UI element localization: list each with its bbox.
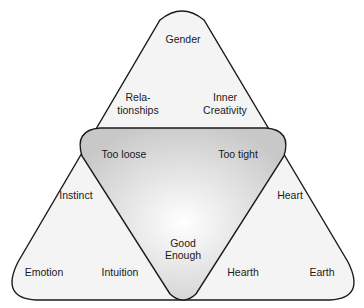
label-relationships-line2: tionships [117, 104, 158, 116]
triangle-diagram: Gender Rela- tionships Inner Creativity … [0, 0, 364, 308]
label-intuition: Intuition [102, 266, 139, 278]
label-instinct: Instinct [59, 189, 92, 201]
label-hearth: Hearth [227, 266, 259, 278]
label-inner-creativity-line1: Inner [213, 91, 237, 103]
label-good-enough-line1: Good [170, 237, 196, 249]
label-good-enough-line2: Enough [165, 249, 201, 261]
label-too-loose: Too loose [102, 148, 147, 160]
label-heart: Heart [277, 189, 303, 201]
label-emotion: Emotion [25, 266, 64, 278]
label-relationships-line1: Rela- [125, 91, 151, 103]
label-inner-creativity-line2: Creativity [203, 104, 248, 116]
label-earth: Earth [309, 266, 334, 278]
label-too-tight: Too tight [218, 148, 258, 160]
label-gender: Gender [165, 33, 201, 45]
